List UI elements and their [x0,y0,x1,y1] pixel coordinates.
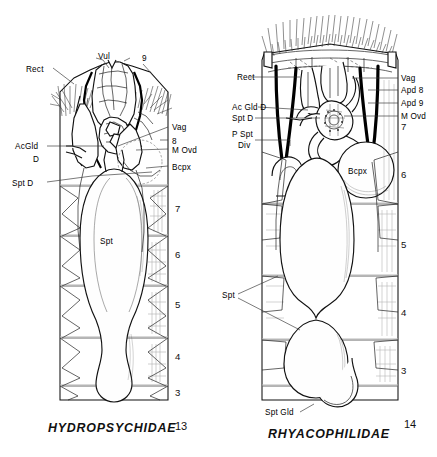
fig13-label-vul: Vul [98,52,110,61]
fig13-segment-5: 5 [175,299,180,310]
fig14-segment-5: 5 [401,239,406,250]
fig13-label-acgld: AcGld [15,142,39,151]
fig14-number: 14 [404,418,416,430]
leader-rect [53,68,74,84]
figure-13-hydropsychidae: Rect Vul 9 AcGld D Spt D Vag 8 M Ovd Bcp… [12,52,197,435]
fig14-label-apd8: Apd 8 [401,86,424,95]
fig14-label-apd9: Apd 9 [401,99,424,108]
fig14-label-movd: M Ovd [401,112,426,121]
fig13-label-9: 9 [142,54,147,63]
fig13-segment-7: 7 [175,203,180,214]
fig13-segment-6: 6 [175,249,180,260]
fig13-label-rect: Rect [26,65,44,74]
fig14-label-pspt: P Spt [232,130,253,139]
fig14-label-vag: Vag [401,74,416,83]
fig13-label-movd: M Ovd [172,146,197,155]
fig13-label-8: 8 [172,137,177,146]
fig13-label-acgld-d: D [33,155,39,164]
fig13-label-spt: Spt [100,237,113,246]
illustration-plate: Rect Vul 9 AcGld D Spt D Vag 8 M Ovd Bcp… [0,0,437,457]
fig14-segment-7: 7 [401,121,406,132]
fig14-caption: RHYACOPHILIDAE [268,427,390,441]
fig14-segment-3: 3 [401,365,406,376]
fig14-segment-4: 4 [401,307,407,318]
fig13-label-vag: Vag [172,123,187,132]
fig14-label-sptd: Spt D [232,114,253,123]
fig13-segment-4: 4 [175,351,181,362]
fig14-label-bcpx: Bcpx [348,167,367,176]
leader-vul-b [124,58,130,61]
fig14-label-rect: Rect [237,73,255,82]
fig13-label-bcpx: Bcpx [172,163,191,172]
fig13-label-sptd: Spt D [12,179,33,188]
fig13-number: 13 [175,420,187,432]
fig14-label-div: Div [238,141,251,150]
fig14-label-acgldd: Ac Gld D [232,103,266,112]
fig13-segment-3: 3 [175,387,180,398]
leader-sptgld-14 [300,404,314,412]
fig14-label-spt: Spt [222,291,235,300]
fig14-spermatheca [280,158,358,407]
fig13-caption: HYDROPSYCHIDAE [48,421,176,435]
fig14-segment-6: 6 [401,169,406,180]
fig14-label-sptgld: Spt Gld [265,408,294,417]
figure-14-rhyacophilidae: Rect Ac Gld D Spt D P Spt Div Spt Vag Ap… [222,15,426,441]
